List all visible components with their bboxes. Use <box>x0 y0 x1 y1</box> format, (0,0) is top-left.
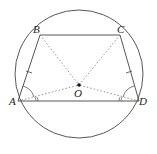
segment-bo <box>40 35 79 85</box>
geometry-diagram: A B C D O <box>0 0 157 154</box>
label-b: B <box>33 23 40 35</box>
angle-mark-oda-2 <box>119 97 120 101</box>
label-c: C <box>117 23 125 35</box>
angle-mark-oad-2 <box>37 97 38 101</box>
angle-arc-cda <box>123 86 134 97</box>
label-a: A <box>8 95 16 107</box>
label-d: D <box>138 95 147 107</box>
angle-arc-bad <box>23 86 34 97</box>
tick-mark-ab <box>26 71 32 73</box>
label-o: O <box>74 87 82 99</box>
segment-co <box>79 35 120 85</box>
angle-mark-oad-1 <box>35 97 36 101</box>
angle-mark-oda-1 <box>121 97 122 101</box>
diagram-canvas: A B C D O <box>0 0 157 154</box>
segment-ab <box>18 35 40 101</box>
